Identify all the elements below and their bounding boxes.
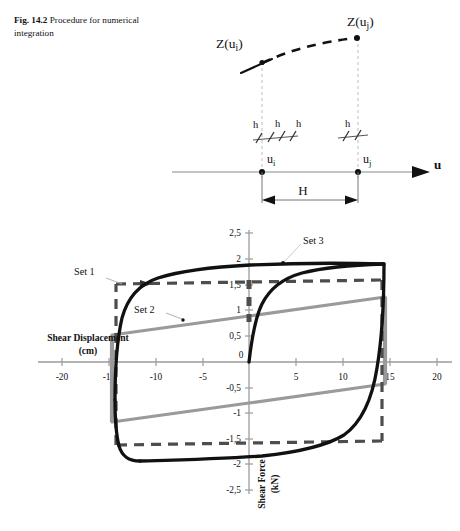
label-ui: ui: [267, 152, 276, 168]
y-tick-label: -2,5: [226, 485, 241, 495]
x-tick-label: -10: [150, 372, 163, 382]
x-tick-label: 0: [239, 350, 244, 360]
u-axis-label: u: [434, 157, 441, 172]
y-tick-label: 0,5: [229, 331, 241, 341]
x-axis-unit: (cm): [79, 345, 98, 357]
annotation-set3-leader: [284, 244, 301, 262]
annotation-set3-dot: [281, 261, 285, 265]
h-label-3: h: [296, 118, 302, 129]
y-tick-label: 1: [236, 305, 241, 315]
y-tick-label: 2: [236, 254, 241, 264]
annotation-set2-leader: [166, 313, 182, 319]
label-z-ui: Z(ui): [216, 36, 243, 53]
annotation-set2-dot: [181, 318, 184, 321]
integration-curve: [262, 38, 356, 63]
y-tick-label: -0,5: [226, 383, 241, 393]
label-z-uj: Z(uj): [347, 14, 374, 31]
x-axis-title: Shear Displacement: [47, 332, 129, 343]
y-axis-title: Shear Force: [256, 459, 267, 509]
label-uj: uj: [363, 152, 371, 168]
u-axis-arrow: [412, 166, 430, 178]
annotation-set2: Set 2: [134, 304, 155, 315]
h-span-arrow-left: [262, 196, 275, 205]
annotation-set1-leader: [106, 278, 122, 284]
h-baseline-right: [338, 135, 368, 138]
h-label-1: h: [253, 119, 259, 130]
y-tick-label: -2: [233, 459, 241, 469]
y-axis-unit: (kN): [269, 475, 281, 494]
y-tick-label: 2,5: [229, 228, 241, 238]
hysteresis-chart: -20 -15 -10 -5 0 5 10 15 20 2,5 2 1,5: [0, 218, 460, 531]
x-tick-label: -5: [199, 372, 207, 382]
h-tick-group-right: [343, 130, 361, 141]
annotation-set3: Set 3: [303, 235, 324, 246]
h-span-label: H: [298, 183, 307, 198]
x-tick-label: 5: [294, 372, 299, 382]
h-span-arrow-right: [345, 196, 358, 205]
figure-root: Fig. 14.2 Procedure for numerical integr…: [0, 0, 460, 531]
h-label-2: h: [275, 118, 281, 129]
y-tick-label: -1: [233, 408, 241, 418]
x-tick-label: 20: [432, 372, 442, 382]
x-tick-label: 10: [338, 372, 348, 382]
h-label-4: h: [345, 118, 351, 129]
x-tick-label: -20: [56, 372, 69, 382]
node-dot-zuj: [354, 35, 360, 41]
node-dot-zui: [259, 60, 264, 65]
annotation-set1: Set 1: [74, 266, 95, 277]
numerical-integration-diagram: Z(ui) Z(uj) h h h h u ui uj: [0, 0, 460, 218]
